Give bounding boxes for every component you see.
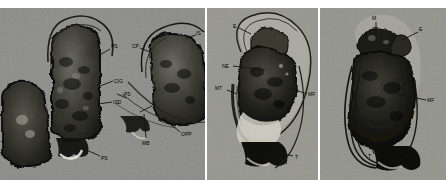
panel2-label-t: T [295, 154, 298, 160]
panel3-label-t: T [368, 153, 371, 159]
panel1-label-ps-bot: PS [101, 155, 108, 161]
panel2-label-ne: NE [222, 63, 230, 69]
panel2-label-mf: MF [308, 91, 315, 97]
clipped-header-text: · · · ·· · ·· ··· · ·· · ·· ·· · [0, 0, 446, 8]
panel-right-micrograph[interactable]: M E MF T [320, 8, 446, 180]
panel2-label-mt: MT [215, 85, 222, 91]
panel1-label-cp: CP [132, 43, 140, 49]
panel1-label-ps-mid: PS [124, 91, 131, 97]
panel1-label-is: IS [196, 30, 201, 36]
figure-plate: · · · ·· · ·· ··· · ·· · ·· ·· · [0, 0, 446, 180]
panel3-label-mf: MF [427, 97, 434, 103]
panel1-label-mb: MB [142, 140, 150, 146]
panel-middle-image: E NE MT MF T [207, 8, 318, 180]
panel-right-image: M E MF T [320, 8, 446, 180]
panel-middle-micrograph[interactable]: E NE MT MF T [207, 8, 318, 180]
panel-left-image: PS CIG ISD PS PS IS CP X MB OPP [0, 8, 205, 180]
panel1-label-cig: CIG [114, 78, 123, 84]
panel-left-micrograph[interactable]: PS CIG ISD PS PS IS CP X MB OPP [0, 8, 205, 180]
panel3-label-m: M [372, 15, 376, 21]
panel1-label-opp: OPP [181, 131, 192, 137]
panel-row: PS CIG ISD PS PS IS CP X MB OPP [0, 8, 446, 180]
clipped-header-label: · · · ·· · ·· ··· · ·· · ·· ·· · [0, 0, 79, 2]
panel1-label-isd: ISD [113, 99, 122, 105]
panel1-label-ps-top: PS [111, 43, 118, 49]
